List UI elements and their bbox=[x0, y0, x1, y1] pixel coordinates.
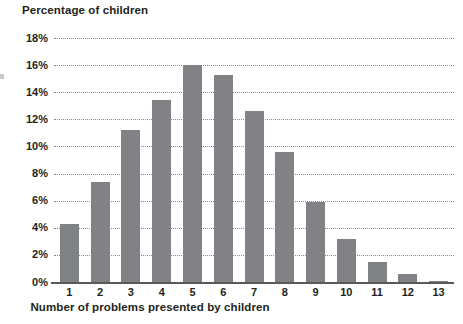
y-axis-tick-label: 12% bbox=[8, 114, 48, 125]
gridline bbox=[54, 38, 454, 39]
y-axis-tick-label: 8% bbox=[8, 168, 48, 179]
gridline bbox=[54, 65, 454, 66]
bar bbox=[245, 111, 264, 282]
x-axis-tick-label: 13 bbox=[424, 287, 454, 298]
y-axis-tick-label: 0% bbox=[8, 277, 48, 288]
bar bbox=[183, 65, 202, 282]
x-axis-tick-label: 9 bbox=[301, 287, 331, 298]
plot-area bbox=[54, 38, 454, 282]
x-axis-tick-label: 1 bbox=[54, 287, 84, 298]
y-axis-tick-label: 16% bbox=[8, 60, 48, 71]
y-axis-tick-label: 18% bbox=[8, 33, 48, 44]
bar bbox=[152, 100, 171, 282]
x-axis-tick-label: 10 bbox=[331, 287, 361, 298]
x-axis-tick-label: 2 bbox=[85, 287, 115, 298]
x-axis-tick-label: 5 bbox=[177, 287, 207, 298]
x-axis-line bbox=[51, 282, 454, 284]
y-axis-tick-label: 6% bbox=[8, 195, 48, 206]
bar bbox=[368, 262, 387, 282]
bar bbox=[398, 274, 417, 282]
x-axis-tick-label: 12 bbox=[393, 287, 423, 298]
bar bbox=[121, 130, 140, 282]
bar bbox=[306, 202, 325, 282]
x-axis-title: Number of problems presented by children bbox=[0, 301, 300, 313]
bar bbox=[337, 239, 356, 282]
x-axis-tick-label: 8 bbox=[270, 287, 300, 298]
y-axis-tick-label: 4% bbox=[8, 222, 48, 233]
bar-chart-figure: Percentage of children 18%16%14%12%10%8%… bbox=[0, 0, 463, 324]
bar bbox=[275, 152, 294, 282]
bar bbox=[91, 182, 110, 282]
x-axis-tick-label: 3 bbox=[116, 287, 146, 298]
y-axis-tick-label: 14% bbox=[8, 87, 48, 98]
y-axis-tick-label: 2% bbox=[8, 249, 48, 260]
x-axis-tick-label: 4 bbox=[147, 287, 177, 298]
bar bbox=[214, 75, 233, 282]
bar bbox=[60, 224, 79, 282]
gridline bbox=[54, 92, 454, 93]
x-axis-tick-label: 6 bbox=[208, 287, 238, 298]
x-axis-tick-label: 11 bbox=[362, 287, 392, 298]
y-axis-tick-label: 10% bbox=[8, 141, 48, 152]
x-axis-tick-label: 7 bbox=[239, 287, 269, 298]
